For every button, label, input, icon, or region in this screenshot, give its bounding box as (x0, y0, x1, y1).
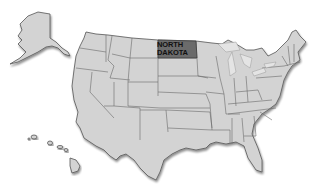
hawaii (28, 135, 80, 173)
label-line-2: DAKOTA (157, 49, 197, 57)
us-map (0, 0, 320, 185)
north-dakota-label: NORTH DAKOTA (157, 41, 197, 57)
alaska (10, 12, 70, 64)
